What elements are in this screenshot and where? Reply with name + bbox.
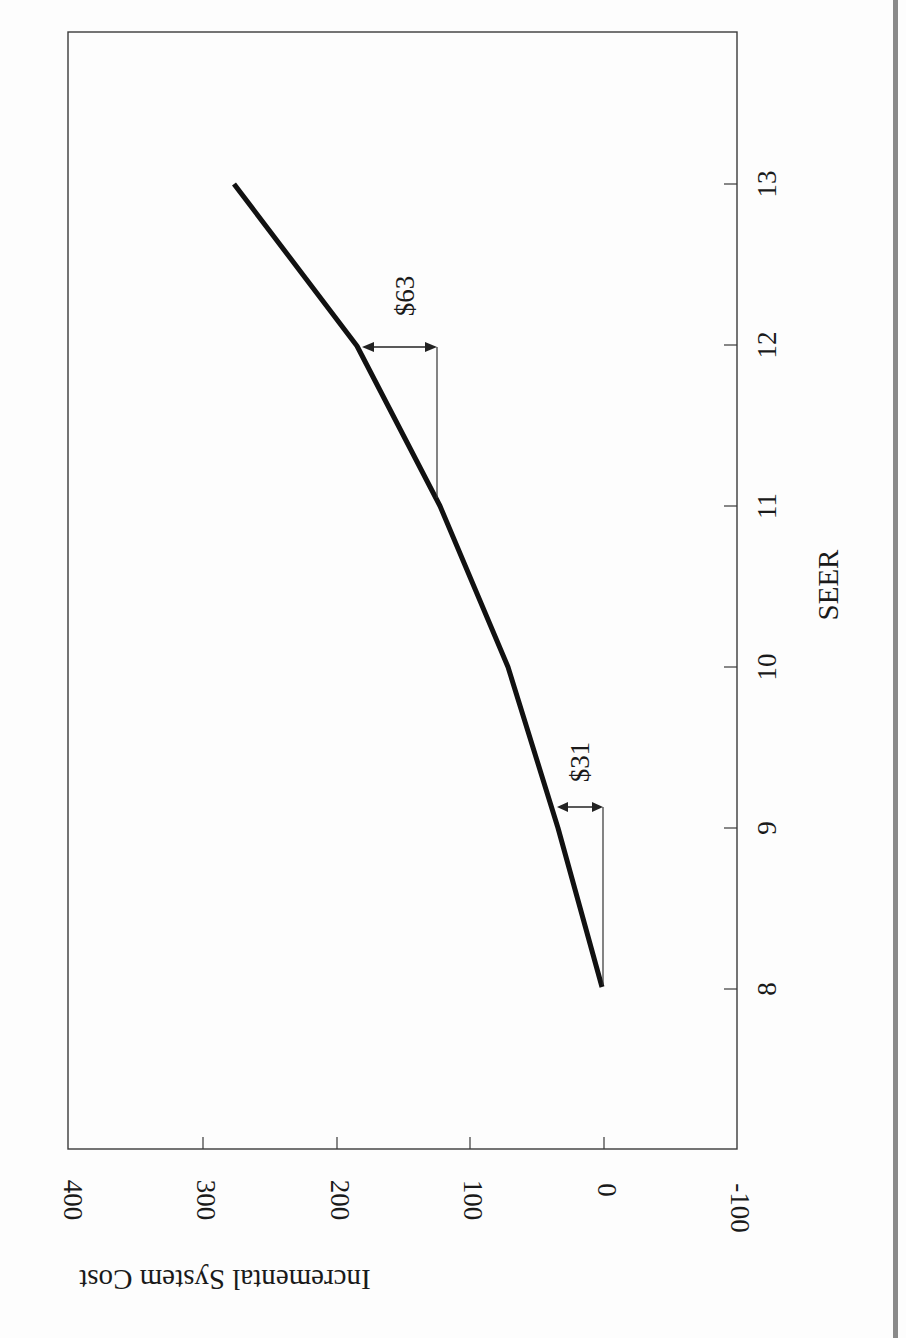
x-tick-labels: 13 12 11 10 9 8 (752, 171, 782, 996)
x-tick-9: 9 (752, 821, 782, 835)
y-tick-200: 200 (325, 1180, 355, 1221)
x-tick-8: 8 (752, 982, 782, 996)
y-tick-400: 400 (58, 1180, 88, 1221)
x-tick-10: 10 (752, 654, 782, 681)
y-tick-0: 0 (592, 1183, 622, 1197)
annotation-63: $63 (362, 276, 437, 498)
y-tick-100: 100 (458, 1180, 488, 1221)
x-axis-ticks (724, 184, 737, 989)
annotation-31-label: $31 (565, 742, 595, 783)
plot-frame (68, 32, 737, 1149)
y-tick-labels: 400 300 200 100 0 -100 (58, 1180, 755, 1233)
x-tick-11: 11 (752, 493, 782, 519)
y-axis-label: Incremental System Cost (79, 1264, 371, 1296)
annotation-31: $31 (557, 742, 603, 985)
chart: $63 $31 13 12 11 10 9 8 SEER 400 300 200… (0, 0, 906, 1338)
x-tick-13: 13 (752, 171, 782, 198)
x-tick-12: 12 (752, 332, 782, 359)
y-tick-minus-100: -100 (725, 1183, 755, 1233)
y-axis-ticks (203, 1137, 604, 1149)
annotation-63-label: $63 (390, 276, 420, 317)
page: $63 $31 13 12 11 10 9 8 SEER 400 300 200… (0, 0, 906, 1338)
y-tick-300: 300 (191, 1180, 221, 1221)
x-axis-label: SEER (812, 549, 844, 621)
